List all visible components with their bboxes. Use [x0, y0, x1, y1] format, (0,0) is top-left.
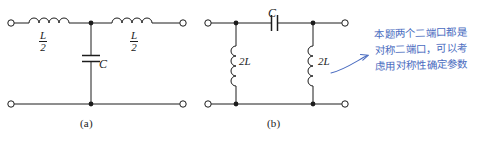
terminal-b-bottom-left [205, 101, 211, 107]
terminal-a-top-left [8, 20, 14, 26]
handwritten-annotation: 本题两个二端口都是 对称二端口，可以考 虑用对称性确定参数 [374, 23, 489, 74]
terminal-a-top-right [180, 20, 186, 26]
annotation-line-3: 虑用对称性确定参数 [375, 55, 489, 74]
label-capacitor-b: C [268, 6, 276, 21]
terminal-b-top-right [342, 20, 348, 26]
terminal-b-top-left [205, 20, 211, 26]
annotation-arrow [331, 55, 369, 74]
figure-canvas: L 2 L 2 C C 2L 2L (a) (b) 本题两个二端口都是 对称二端… [0, 0, 489, 142]
terminal-a-bottom-right [180, 101, 186, 107]
circuit-a-group [8, 18, 186, 107]
inductor-a-right-coil [112, 18, 152, 23]
inductor-a-left-coil [29, 18, 69, 23]
label-capacitor-a: C [99, 57, 107, 72]
label-inductor-a-right: L 2 [130, 30, 138, 53]
inductor-b-left-coil [231, 46, 236, 86]
label-inductor-b-left: 2L [239, 55, 251, 67]
label-inductor-a-left-denominator: 2 [39, 42, 47, 53]
label-inductor-b-right: 2L [318, 55, 330, 67]
label-inductor-a-left: L 2 [39, 30, 47, 53]
annotation-arrow-curve [331, 56, 367, 74]
junction-b-bottom-right [311, 102, 316, 107]
label-inductor-a-right-denominator: 2 [130, 42, 138, 53]
junction-b-bottom-left [234, 102, 239, 107]
terminal-b-bottom-right [342, 101, 348, 107]
inductor-b-right-coil [308, 46, 313, 86]
caption-circuit-a: (a) [80, 117, 93, 129]
terminal-a-bottom-left [8, 101, 14, 107]
caption-circuit-b: (b) [267, 117, 280, 129]
junction-a-bottom-center [89, 102, 94, 107]
